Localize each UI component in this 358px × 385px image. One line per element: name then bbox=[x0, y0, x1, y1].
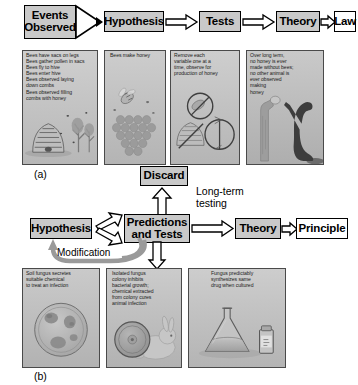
flow-a-node-theory: Theory bbox=[276, 11, 320, 32]
flow-b-theory-label: Theory bbox=[239, 223, 276, 235]
flow-b-panel-isolated-colony: Isolated fungus colony inhibits bacteria… bbox=[106, 268, 182, 368]
flow-a-node-hypothesis: Hypothesis bbox=[104, 11, 164, 32]
flow-b-panel-2-caption: Isolated fungus colony inhibits bacteria… bbox=[112, 270, 179, 307]
flow-a-panel-remove-variables: Remove each variable one at a time, obse… bbox=[170, 50, 240, 165]
flow-b-node-principle: Principle bbox=[296, 218, 348, 239]
flow-b-node-discard: Discard bbox=[140, 166, 188, 186]
flow-a-events-observed-line2: Observed bbox=[24, 21, 75, 33]
flow-b-hypothesis-label: Hypothesis bbox=[31, 223, 91, 235]
flow-a-node-tests: Tests bbox=[199, 11, 241, 32]
flow-a-panel-1-caption: Bees have sacs on legs Bees gather polle… bbox=[26, 52, 95, 101]
flow-a-panel-3-caption: Remove each variable one at a time, obse… bbox=[174, 52, 237, 76]
subfigure-label-a: (a) bbox=[34, 168, 47, 180]
bee-on-honeycomb-illustration bbox=[105, 51, 165, 164]
long-term-testing-line2: testing bbox=[196, 197, 227, 209]
flow-b-predictions-line1: Predictions bbox=[127, 216, 187, 228]
flow-a-node-events-observed: Events Observed bbox=[24, 5, 76, 39]
flow-b-panel-3-caption: Fungus predictably synthesizes same drug… bbox=[211, 270, 283, 288]
flow-a-events-observed-line1: Events bbox=[32, 9, 69, 21]
flow-a-node-law: Law bbox=[334, 11, 356, 32]
flow-b-arrow-to-theory bbox=[192, 220, 234, 237]
flow-a-panel-bee-observations: Bees have sacs on legs Bees gather polle… bbox=[22, 50, 98, 165]
flow-b-node-theory: Theory bbox=[235, 218, 281, 239]
figure-scientific-method: Events Observed Hypothesis Tests Theory bbox=[0, 0, 358, 385]
flow-a-hypothesis-label: Hypothesis bbox=[104, 16, 164, 28]
flow-a-arrow-3 bbox=[243, 14, 275, 30]
long-term-testing-line1: Long-term bbox=[196, 185, 244, 197]
flow-a-panel-4-caption: Over long term, no honey is ever made wi… bbox=[250, 52, 321, 95]
flow-a-panel-2-caption: Bees make honey bbox=[110, 52, 163, 58]
subfigure-label-b: (b) bbox=[34, 370, 47, 382]
flow-b-panel-cultured-synthesis: Fungus predictably synthesizes same drug… bbox=[188, 268, 286, 368]
flow-a-arrow-triangle-1 bbox=[74, 5, 104, 39]
flow-b-arrow-down-to-panels bbox=[148, 242, 166, 270]
flow-a-panel-long-term: Over long term, no honey is ever made wi… bbox=[246, 50, 324, 165]
flow-a-law-label: Law bbox=[334, 16, 356, 28]
flow-a-panel-bees-make-honey: Bees make honey bbox=[104, 50, 166, 165]
flow-b-discard-label: Discard bbox=[144, 170, 185, 182]
flow-a-theory-label: Theory bbox=[279, 16, 316, 28]
flow-a-arrow-2 bbox=[166, 14, 198, 30]
flow-b-annotation-long-term-testing: Long-term testing bbox=[196, 186, 244, 209]
flow-b-principle-label: Principle bbox=[299, 223, 346, 235]
flow-a-tests-label: Tests bbox=[206, 16, 234, 28]
flow-b-annotation-modification: Modification bbox=[57, 247, 110, 259]
flow-b-panel-1-caption: Soil fungus secretes suitable chemical t… bbox=[26, 270, 97, 288]
flow-b-panel-soil-fungus: Soil fungus secretes suitable chemical t… bbox=[22, 268, 100, 368]
